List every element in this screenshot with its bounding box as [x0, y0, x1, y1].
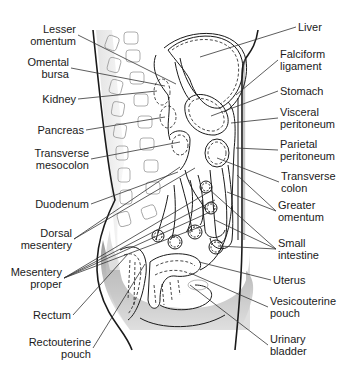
label-dorsal-mesentery: Dorsal mesentery: [21, 227, 72, 251]
label-visceral-peritoneum: Visceral peritoneum: [280, 106, 335, 130]
label-falciform-ligament: Falciform ligament: [280, 48, 325, 72]
label-rectouterine-pouch: Rectouterine pouch: [29, 336, 91, 360]
label-mesentery-proper: Mesentery proper: [11, 266, 62, 290]
label-kidney: Kidney: [42, 93, 76, 105]
label-omental-bursa: Omental bursa: [27, 56, 69, 80]
label-rectum: Rectum: [33, 309, 71, 321]
label-stomach: Stomach: [280, 85, 323, 97]
label-greater-omentum: Greater omentum: [278, 199, 324, 223]
label-liver: Liver: [298, 21, 322, 33]
label-duodenum: Duodenum: [35, 198, 89, 210]
label-pancreas: Pancreas: [38, 124, 84, 136]
label-parietal-peritoneum: Parietal peritoneum: [280, 138, 335, 162]
label-transverse-colon: Transverse colon: [281, 170, 336, 194]
label-vesicouterine-pouch: Vesicouterine pouch: [270, 295, 336, 319]
label-lesser-omentum: Lesser omentum: [30, 23, 76, 47]
label-small-intestine: Small intestine: [278, 237, 319, 261]
label-transverse-mesocolon: Transverse mesocolon: [34, 147, 89, 171]
anatomy-diagram: Lesser omentumOmental bursaKidneyPancrea…: [0, 0, 348, 367]
label-uterus: Uterus: [273, 274, 305, 286]
label-urinary-bladder: Urinary bladder: [270, 333, 307, 357]
